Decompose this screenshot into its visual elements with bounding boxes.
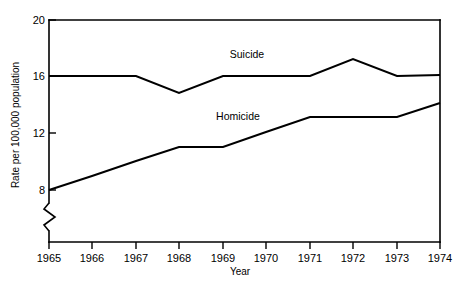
chart-container: 20 16 12 8 1965 1966 1967 1968 1969 1970 — [0, 0, 463, 282]
x-tick-label-1969: 1969 — [211, 252, 235, 264]
series-label-homicide: Homicide — [216, 110, 260, 122]
x-tick-label-1970: 1970 — [254, 252, 278, 264]
x-tick-labels: 1965 1966 1967 1968 1969 1970 1971 1972 … — [37, 252, 452, 264]
y-axis-title: Rate per 100,000 population — [10, 62, 21, 188]
y-tick-labels: 20 16 12 8 — [33, 14, 45, 196]
y-tick-marks — [49, 20, 56, 190]
x-tick-label-1973: 1973 — [385, 252, 409, 264]
series-line-suicide — [49, 59, 440, 93]
x-tick-label-1972: 1972 — [341, 252, 365, 264]
y-axis-break-icon — [44, 203, 55, 231]
y-tick-label-12: 12 — [33, 127, 45, 139]
y-tick-label-16: 16 — [33, 70, 45, 82]
x-axis-title: Year — [230, 266, 251, 277]
x-tick-label-1966: 1966 — [80, 252, 104, 264]
x-tick-label-1968: 1968 — [167, 252, 191, 264]
line-chart: 20 16 12 8 1965 1966 1967 1968 1969 1970 — [0, 0, 463, 282]
y-tick-label-20: 20 — [33, 14, 45, 26]
x-tick-marks — [49, 242, 440, 249]
x-tick-label-1965: 1965 — [37, 252, 61, 264]
x-tick-label-1971: 1971 — [298, 252, 322, 264]
x-tick-label-1974: 1974 — [428, 252, 452, 264]
series-label-suicide: Suicide — [230, 48, 265, 60]
x-tick-label-1967: 1967 — [124, 252, 148, 264]
y-tick-label-8: 8 — [39, 184, 45, 196]
